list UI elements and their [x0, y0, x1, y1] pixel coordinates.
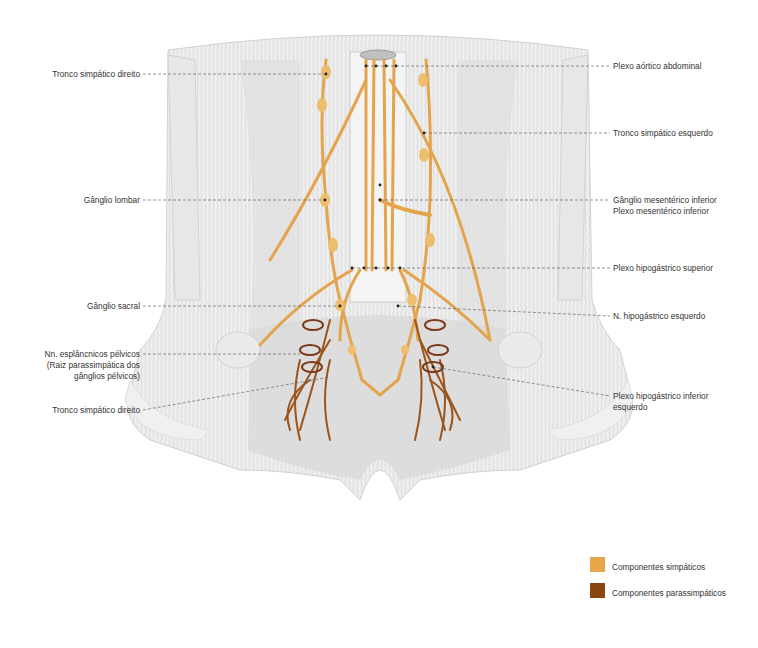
label-plexo-aortico-abdominal: Plexo aórtico abdominal: [613, 61, 702, 72]
label-ganglio-sacral: Gânglio sacral: [87, 301, 140, 312]
label-plexo-hipogastrico-superior: Plexo hipogástrico superior: [613, 263, 713, 274]
label-line: esquerdo: [613, 402, 708, 413]
label-ganglio-mesenterico-inferior: Gânglio mesentérico inferior Plexo mesen…: [613, 195, 717, 217]
muscle-wall: [125, 35, 633, 500]
label-line: Nn. esplâncnicos pélvicos: [45, 349, 140, 360]
legend-item-sympathetic: Componentes simpáticos: [590, 556, 705, 572]
label-line: Gânglio mesentérico inferior: [613, 195, 717, 206]
label-nn-esplancnicos-pelvicos: Nn. esplâncnicos pélvicos (Raiz parassim…: [45, 349, 140, 382]
label-plexo-hipogastrico-inferior-esquerdo: Plexo hipogástrico inferior esquerdo: [613, 391, 708, 413]
label-tronco-simpatico-esquerdo: Tronco simpático esquerdo: [613, 128, 713, 139]
label-line: gânglios pélvicos): [45, 371, 140, 382]
label-ganglio-lombar: Gânglio lombar: [84, 195, 140, 206]
legend-label: Componentes parassimpáticos: [612, 588, 726, 598]
label-line: (Raiz parassimpática dos: [45, 360, 140, 371]
legend-label: Componentes simpáticos: [612, 562, 705, 572]
label-line: Plexo mesentérico inferior: [613, 206, 717, 217]
anatomy-figure: Tronco simpático direito Gânglio lombar …: [0, 0, 758, 648]
label-tronco-simpatico-direito-bottom: Tronco simpático direito: [52, 405, 140, 416]
legend-item-parasympathetic: Componentes parassimpáticos: [590, 582, 726, 598]
label-line: Plexo hipogástrico inferior: [613, 391, 708, 402]
legend-swatch-parasympathetic: [590, 583, 605, 598]
legend-swatch-sympathetic: [590, 557, 605, 572]
label-n-hipogastrico-esquerdo: N. hipogástrico esquerdo: [613, 311, 705, 322]
pelvic-nerve-illustration: [0, 0, 758, 648]
label-tronco-simpatico-direito-top: Tronco simpático direito: [52, 69, 140, 80]
